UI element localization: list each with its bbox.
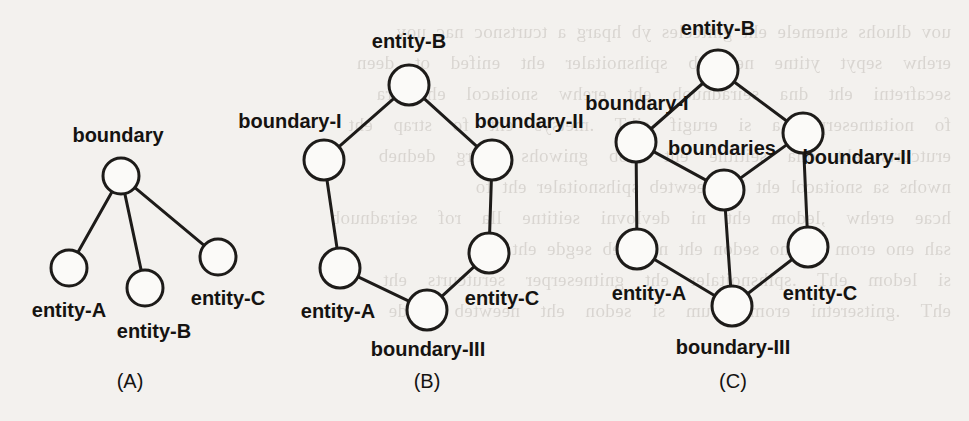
- graph-edge: [490, 179, 492, 234]
- graph-diagram: boundaryentity-Aentity-Bentity-Centity-B…: [0, 0, 969, 421]
- graph-edge: [423, 98, 478, 148]
- labels-layer: boundaryentity-Aentity-Bentity-Centity-B…: [32, 17, 912, 360]
- graph-node-a-entity-a[interactable]: [51, 250, 87, 286]
- node-label-b-entity-a: entity-A: [301, 300, 375, 322]
- graph-node-c-entity-c[interactable]: [788, 227, 828, 267]
- node-label-a-entity-b: entity-B: [117, 320, 191, 342]
- graph-node-b-entity-a[interactable]: [320, 248, 360, 288]
- node-label-c-entity-b: entity-B: [681, 17, 755, 39]
- node-label-b-boundary-ii: boundary-II: [475, 110, 584, 132]
- node-label-c-entity-a: entity-A: [612, 282, 686, 304]
- graph-node-c-boundary-i[interactable]: [616, 122, 656, 162]
- node-label-b-boundary-iii: boundary-III: [371, 338, 485, 360]
- node-label-c-boundary-i: boundary-I: [585, 92, 688, 114]
- graph-node-a-boundary[interactable]: [103, 158, 139, 194]
- node-label-a-boundary: boundary: [72, 124, 164, 146]
- panel-caption-A: (A): [117, 370, 144, 392]
- captions-layer: (A)(B)(C): [117, 370, 747, 392]
- graph-edge: [134, 187, 205, 246]
- graph-edge: [636, 161, 637, 230]
- graph-node-b-boundary-iii[interactable]: [407, 290, 447, 330]
- panel-caption-B: (B): [414, 370, 441, 392]
- graph-node-c-boundary-iii[interactable]: [712, 286, 752, 326]
- nodes-layer: [51, 50, 828, 330]
- node-label-c-boundaries: boundaries: [668, 137, 776, 159]
- panel-caption-C: (C): [719, 370, 747, 392]
- graph-edge: [733, 81, 787, 121]
- node-label-c-boundary-iii: boundary-III: [676, 336, 790, 358]
- node-label-c-boundary-ii: boundary-II: [803, 146, 912, 168]
- graph-node-c-entity-a[interactable]: [617, 229, 657, 269]
- graph-node-a-entity-c[interactable]: [200, 239, 236, 275]
- graph-edge: [125, 193, 142, 272]
- graph-node-a-entity-b[interactable]: [127, 270, 163, 306]
- graph-edge: [77, 191, 112, 253]
- graph-node-b-entity-c[interactable]: [469, 233, 509, 273]
- graph-edge: [338, 98, 395, 148]
- node-label-c-entity-c: entity-C: [783, 282, 857, 304]
- node-label-b-boundary-i: boundary-I: [238, 110, 341, 132]
- graph-edge: [327, 179, 337, 249]
- graph-node-c-entity-b[interactable]: [698, 50, 738, 90]
- graph-node-c-boundaries[interactable]: [704, 170, 744, 210]
- figure-canvas: uov dluohs stnemele eht gnitceles yb hpa…: [0, 0, 969, 421]
- node-label-a-entity-a: entity-A: [32, 299, 106, 321]
- node-label-b-entity-b: entity-B: [372, 30, 446, 52]
- graph-edge: [725, 209, 730, 287]
- node-label-a-entity-c: entity-C: [191, 287, 265, 309]
- graph-node-b-entity-b[interactable]: [389, 65, 429, 105]
- node-label-b-entity-c: entity-C: [465, 287, 539, 309]
- edges-layer: [77, 81, 807, 301]
- graph-node-b-boundary-i[interactable]: [304, 140, 344, 180]
- graph-edge: [357, 276, 410, 301]
- graph-node-b-boundary-ii[interactable]: [472, 140, 512, 180]
